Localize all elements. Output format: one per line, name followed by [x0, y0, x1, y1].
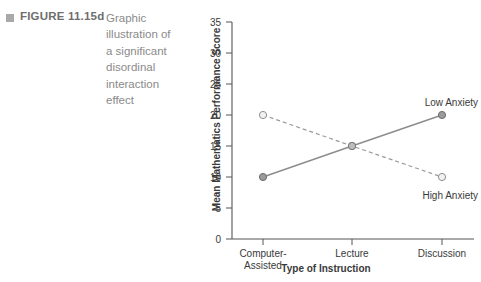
- y-tick-label: 10: [210, 172, 222, 183]
- series-label-low-anxiety: Low Anxiety: [425, 97, 478, 108]
- y-tick-label: 25: [210, 79, 222, 90]
- figure-label: FIGURE 11.15d: [20, 10, 98, 22]
- data-point-high-anxiety: [259, 111, 266, 118]
- y-tick-label: 35: [210, 17, 222, 28]
- y-tick-label: 15: [210, 141, 222, 152]
- y-tick-label: 5: [215, 203, 221, 214]
- figure-caption-block: FIGURE 11.15d Graphic illustration of a …: [0, 10, 190, 108]
- data-point-low-anxiety: [438, 111, 445, 118]
- data-point-high-anxiety: [348, 142, 355, 149]
- y-axis-ticks: [226, 22, 232, 239]
- x-tick-label: Computer-: [239, 248, 286, 259]
- x-tick-label-cont: Assisted: [244, 260, 282, 271]
- data-point-high-anxiety: [438, 173, 445, 180]
- y-tick-label: 0: [215, 234, 221, 245]
- x-tick-label: Lecture: [335, 248, 369, 259]
- x-tick-label: Discussion: [418, 248, 466, 259]
- line-chart-plot: 35 30 25 20 15 10 5 0 Computer- Assisted…: [190, 0, 481, 282]
- figure-page: FIGURE 11.15d Graphic illustration of a …: [0, 0, 481, 282]
- chart-container: Mean Mathematics Performance Score Type …: [190, 0, 481, 282]
- square-bullet-icon: [6, 14, 14, 22]
- y-tick-label: 30: [210, 48, 222, 59]
- x-axis-ticks: [263, 239, 442, 245]
- data-point-low-anxiety: [259, 173, 266, 180]
- series-label-high-anxiety: High Anxiety: [422, 190, 478, 201]
- figure-caption-text: Graphic illustration of a significant di…: [106, 10, 178, 108]
- y-tick-label: 20: [210, 110, 222, 121]
